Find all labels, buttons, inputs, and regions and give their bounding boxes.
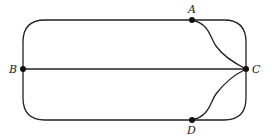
node-a xyxy=(189,17,195,23)
edge-b-a-outer xyxy=(23,20,192,69)
label-b: B xyxy=(8,63,17,76)
edge-a-c-inner xyxy=(192,20,246,69)
edge-a-c-outer xyxy=(192,20,246,69)
label-d: D xyxy=(186,124,196,137)
label-c: C xyxy=(252,63,261,76)
label-a: A xyxy=(187,3,196,16)
node-c xyxy=(243,66,249,72)
graph-diagram: A B C D xyxy=(0,0,272,139)
edge-d-c-inner xyxy=(192,69,246,120)
node-d xyxy=(189,117,195,123)
node-b xyxy=(20,66,26,72)
edge-b-d-outer xyxy=(23,69,192,120)
edge-d-c-outer xyxy=(192,69,246,120)
